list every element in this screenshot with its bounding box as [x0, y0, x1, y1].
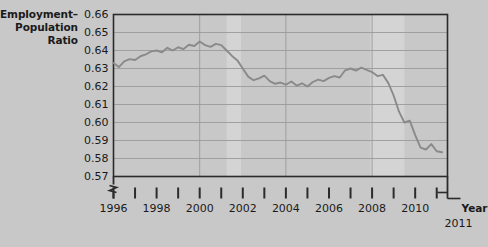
- vertical-gridline-group: [200, 15, 372, 177]
- recession-2008: [370, 15, 404, 177]
- axis-break-icon: [110, 186, 117, 193]
- axis-break-zigzag: [110, 186, 117, 193]
- employment-population-ratio-chart: Employment– Population Ratio 0.660.650.6…: [0, 0, 488, 247]
- plot-frame: [114, 15, 461, 199]
- plot-area: [0, 0, 488, 247]
- recession-shading-group: [227, 15, 405, 177]
- x-tick-mark-group: [114, 188, 437, 199]
- recession-2001: [227, 15, 241, 177]
